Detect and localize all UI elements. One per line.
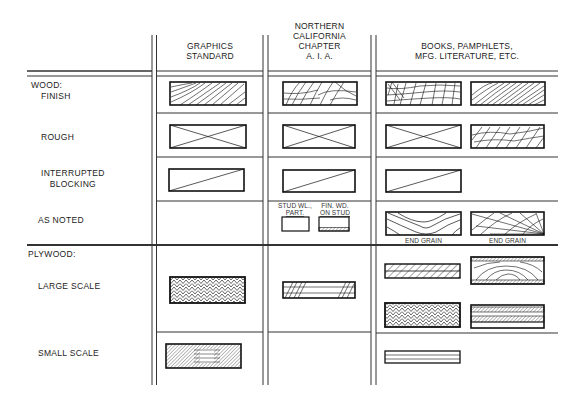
symbol-rough-books-grain	[471, 125, 544, 148]
symbol-end-grain-books-2	[471, 212, 544, 235]
annotation-line: PART.	[270, 209, 320, 216]
section-heading-wood: WOOD:	[31, 80, 62, 91]
symbol-stud-wall-partition	[282, 217, 309, 231]
symbol-finish-norcal-aia	[283, 82, 357, 105]
row-label-interrupted-blocking: INTERRUPTED BLOCKING	[41, 168, 105, 190]
row-label-line: INTERRUPTED	[41, 168, 105, 179]
header-line: BOOKS, PAMPHLETS,	[376, 41, 558, 51]
column-header-graphics-standard: GRAPHICS STANDARD	[157, 41, 263, 61]
row-label-rough: ROUGH	[41, 132, 74, 143]
symbol-finish-books-diagonal	[471, 82, 545, 105]
annotation-line: FIN. WD.	[316, 202, 354, 209]
symbol-rough-norcal-aia	[283, 125, 355, 148]
annotation-stud-wall: STUD WL., PART.	[270, 202, 320, 216]
symbol-plywood-large-graphics-standard	[170, 277, 245, 303]
annotation-end-grain-2: END GRAIN	[471, 237, 544, 244]
column-header-books: BOOKS, PAMPHLETS, MFG. LITERATURE, ETC.	[376, 41, 558, 61]
symbol-plywood-small-books	[385, 351, 460, 363]
symbol-plywood-large-books-1	[385, 264, 460, 278]
annotation-end-grain-1: END GRAIN	[386, 237, 461, 244]
symbol-finish-books-checker	[386, 82, 461, 105]
symbol-plywood-small-graphics-standard	[166, 344, 241, 368]
symbol-end-grain-books-1	[386, 212, 461, 235]
symbol-finish-graphics-standard	[170, 82, 246, 105]
row-label-line: BLOCKING	[41, 179, 105, 190]
annotation-line: ON STUD	[316, 209, 354, 216]
header-line: CHAPTER	[268, 41, 371, 51]
header-line: STANDARD	[157, 51, 263, 61]
row-label-small-scale: SMALL SCALE	[38, 348, 99, 359]
row-label-finish: FINISH	[41, 91, 71, 102]
header-line: MFG. LITERATURE, ETC.	[376, 51, 558, 61]
symbol-blocking-graphics-standard	[169, 169, 244, 191]
section-heading-plywood: PLYWOOD:	[28, 249, 76, 260]
annotation-fin-wood: FIN. WD. ON STUD	[316, 202, 354, 216]
annotation-line: STUD WL.,	[270, 202, 320, 209]
header-line: A. I. A.	[268, 51, 371, 61]
row-label-large-scale: LARGE SCALE	[38, 281, 100, 292]
symbol-rough-graphics-standard	[170, 125, 246, 148]
symbol-blocking-norcal-aia	[283, 170, 355, 192]
symbol-blocking-books	[386, 170, 461, 192]
symbol-rough-books-xbox	[386, 125, 461, 148]
symbol-fin-wood-on-stud	[319, 217, 349, 231]
header-line: GRAPHICS	[157, 41, 263, 51]
symbol-plywood-large-books-2	[471, 257, 544, 284]
header-line: CALIFORNIA	[268, 31, 371, 41]
column-header-norcal-aia: NORTHERN CALIFORNIA CHAPTER A. I. A.	[268, 21, 371, 61]
symbol-plywood-large-books-4	[471, 305, 544, 328]
symbol-plywood-large-books-3	[385, 303, 460, 327]
row-label-as-noted: AS NOTED	[38, 215, 84, 226]
header-line: NORTHERN	[268, 21, 371, 31]
symbol-plywood-large-norcal-aia	[283, 282, 355, 298]
